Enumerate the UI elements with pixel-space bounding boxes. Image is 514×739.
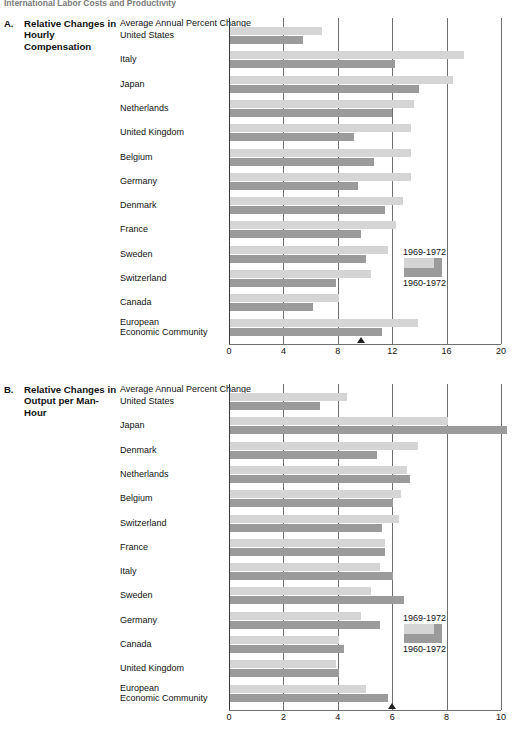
bar-recent-period	[230, 27, 322, 35]
legend-swatch-part	[434, 624, 442, 634]
bar-recent-period	[230, 466, 407, 474]
legend-swatch-part	[434, 258, 442, 268]
category-label: Netherlands	[120, 103, 169, 113]
category-label: Denmark	[120, 200, 157, 210]
bar-full-period	[230, 621, 380, 629]
bar-full-period	[230, 645, 344, 653]
legend: 1969-19721960-1972	[403, 613, 446, 654]
legend-swatch-part	[404, 634, 442, 643]
average-marker-triangle-icon	[357, 337, 365, 343]
bar-recent-period	[230, 515, 399, 523]
bar-recent-period	[230, 149, 411, 157]
category-label-line: Economic Community	[120, 693, 208, 704]
axis-tick-label-12: 12	[380, 346, 404, 356]
bar-full-period	[230, 572, 393, 580]
category-label: Canada	[120, 639, 152, 649]
bar-full-period	[230, 328, 382, 336]
category-label-line: Economic Community	[120, 327, 208, 338]
bar-full-period	[230, 451, 377, 459]
category-label: Switzerland	[120, 518, 167, 528]
legend-label-recent: 1969-1972	[403, 247, 446, 257]
category-label: Netherlands	[120, 469, 169, 479]
bar-full-period	[230, 133, 354, 141]
bar-recent-period	[230, 636, 339, 644]
legend-swatch	[404, 258, 442, 277]
bar-full-period	[230, 402, 320, 410]
panel-output-per-man-hour: B. Relative Changes in Output per Man-Ho…	[0, 384, 514, 739]
category-label: United Kingdom	[120, 663, 184, 673]
category-label: Belgium	[120, 152, 153, 162]
bar-full-period	[230, 158, 374, 166]
bar-recent-period	[230, 246, 388, 254]
bar-full-period	[230, 60, 395, 68]
gridline-20	[501, 18, 502, 344]
category-label: France	[120, 542, 148, 552]
axis-tick-label-8: 8	[435, 712, 459, 722]
category-label: Sweden	[120, 590, 153, 600]
bar-full-period	[230, 230, 361, 238]
bar-recent-period	[230, 51, 464, 59]
category-label: Japan	[120, 420, 145, 430]
category-label: United States	[120, 30, 174, 40]
category-label-line: European	[120, 683, 208, 694]
bar-recent-period	[230, 563, 380, 571]
legend-label-recent: 1969-1972	[403, 613, 446, 623]
bar-recent-period	[230, 417, 448, 425]
bar-full-period	[230, 109, 392, 117]
bar-recent-period	[230, 124, 411, 132]
category-label: United States	[120, 396, 174, 406]
panel-b-letter: B.	[4, 384, 14, 395]
category-label: Switzerland	[120, 273, 167, 283]
bar-recent-period	[230, 685, 366, 693]
average-marker-triangle-icon	[388, 703, 396, 709]
bar-full-period	[230, 499, 393, 507]
legend-swatch-part	[404, 268, 442, 277]
bar-full-period	[230, 524, 382, 532]
category-label: Italy	[120, 566, 137, 576]
bar-full-period	[230, 182, 358, 190]
axis-tick-label-4: 4	[326, 712, 350, 722]
bar-full-period	[230, 303, 313, 311]
panel-hourly-compensation: A. Relative Changes in Hourly Compensati…	[0, 18, 514, 373]
legend: 1969-19721960-1972	[403, 247, 446, 288]
bar-full-period	[230, 475, 410, 483]
category-label: Germany	[120, 615, 157, 625]
gridline-16	[447, 18, 448, 344]
legend-swatch-part	[404, 624, 434, 634]
category-label-line: European	[120, 317, 208, 328]
category-label: Sweden	[120, 249, 153, 259]
bar-recent-period	[230, 393, 347, 401]
category-label: United Kingdom	[120, 127, 184, 137]
axis-baseline	[229, 710, 501, 711]
bar-full-period	[230, 669, 339, 677]
category-label: Japan	[120, 79, 145, 89]
bar-recent-period	[230, 294, 339, 302]
axis-tick-label-10: 10	[489, 712, 513, 722]
bar-recent-period	[230, 173, 411, 181]
bar-recent-period	[230, 660, 336, 668]
bar-full-period	[230, 694, 388, 702]
bar-recent-period	[230, 539, 385, 547]
axis-tick-label-8: 8	[326, 346, 350, 356]
legend-label-full: 1960-1972	[403, 644, 446, 654]
axis-tick-label-20: 20	[489, 346, 513, 356]
bar-full-period	[230, 206, 385, 214]
panel-a-title: Relative Changes in Hourly Compensation	[24, 18, 120, 52]
panel-a-letter: A.	[4, 18, 14, 29]
axis-tick-label-0: 0	[217, 346, 241, 356]
bar-full-period	[230, 426, 507, 434]
bar-full-period	[230, 36, 303, 44]
bar-recent-period	[230, 612, 361, 620]
category-label: Denmark	[120, 445, 157, 455]
panel-b-title: Relative Changes in Output per Man-Hour	[24, 384, 120, 418]
axis-tick-label-0: 0	[217, 712, 241, 722]
legend-swatch-part	[404, 258, 434, 268]
category-label: Canada	[120, 297, 152, 307]
page-header: International Labor Costs and Productivi…	[4, 0, 510, 10]
axis-baseline	[229, 344, 501, 345]
category-label: EuropeanEconomic Community	[120, 317, 208, 338]
axis-tick-label-2: 2	[271, 712, 295, 722]
bar-recent-period	[230, 319, 418, 327]
bar-full-period	[230, 548, 385, 556]
bar-recent-period	[230, 587, 371, 595]
